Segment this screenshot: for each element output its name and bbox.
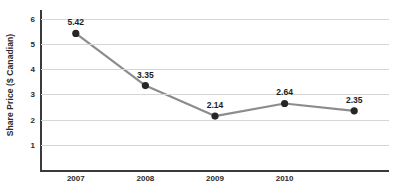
gridline bbox=[41, 19, 389, 20]
x-axis-tick: 2008 bbox=[136, 174, 154, 183]
data-point-label: 2.14 bbox=[207, 100, 224, 110]
gridline bbox=[41, 145, 389, 146]
gridline bbox=[41, 120, 389, 121]
y-axis-label-container: Share Price ($ Canadian) bbox=[0, 0, 20, 170]
gridline bbox=[41, 44, 389, 45]
data-point-marker[interactable] bbox=[281, 100, 288, 107]
y-axis-tick: 5 bbox=[18, 40, 38, 49]
series-line bbox=[41, 10, 389, 170]
data-point-label: 3.35 bbox=[137, 70, 154, 80]
x-axis-tick: 2010 bbox=[276, 174, 294, 183]
x-axis-spine bbox=[40, 170, 389, 172]
data-point-marker[interactable] bbox=[351, 107, 358, 114]
y-axis-tick: 3 bbox=[18, 90, 38, 99]
y-axis-tick-labels: 123456 bbox=[18, 10, 38, 170]
y-axis-tick: 1 bbox=[18, 140, 38, 149]
data-point-marker[interactable] bbox=[142, 82, 149, 89]
x-axis-tick: 2009 bbox=[206, 174, 224, 183]
y-axis-tick: 2 bbox=[18, 115, 38, 124]
data-point-label: 5.42 bbox=[68, 17, 85, 27]
data-point-label: 2.35 bbox=[346, 95, 363, 105]
data-point-marker[interactable] bbox=[72, 30, 79, 37]
plot-area: 5.423.352.142.642.35 bbox=[41, 10, 389, 170]
y-axis-tick: 4 bbox=[18, 65, 38, 74]
data-point-label: 2.64 bbox=[276, 87, 293, 97]
line-chart: Share Price ($ Canadian) 123456 5.423.35… bbox=[0, 0, 394, 194]
data-point-marker[interactable] bbox=[211, 112, 218, 119]
x-axis-tick: 2007 bbox=[67, 174, 85, 183]
gridline bbox=[41, 69, 389, 70]
x-axis-tick-labels: 2007200820092010 bbox=[41, 174, 389, 190]
y-axis-tick: 6 bbox=[18, 14, 38, 23]
gridline bbox=[41, 94, 389, 95]
y-axis-label: Share Price ($ Canadian) bbox=[5, 34, 15, 137]
